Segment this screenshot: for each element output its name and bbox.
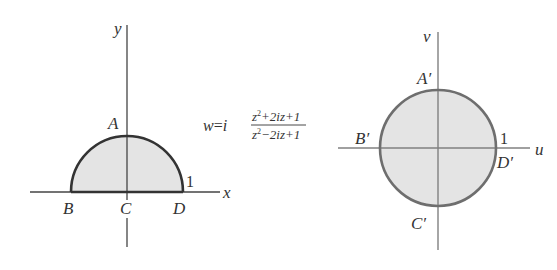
formula-denominator: z2−2iz+1 <box>251 127 300 142</box>
w-plane: v u A′ B′ C′ D′ 1 <box>338 27 544 250</box>
formula-numerator: z2+2iz+1 <box>251 109 300 124</box>
conformal-mapping-figure: y x A B C D 1 w=i z2+2iz+1 z2−2iz+1 v u … <box>0 0 557 270</box>
formula-lhs: w=i <box>203 117 227 134</box>
point-d-prime-label: D′ <box>496 153 513 172</box>
u-axis-label: u <box>535 140 544 159</box>
mapping-formula: w=i z2+2iz+1 z2−2iz+1 <box>203 109 306 142</box>
point-d-label: D <box>172 199 186 218</box>
y-axis-label: y <box>112 19 122 38</box>
v-axis-label: v <box>423 27 431 46</box>
x-axis-label: x <box>222 183 231 202</box>
point-c-label: C <box>120 199 132 218</box>
point-b-label: B <box>63 199 74 218</box>
point-b-prime-label: B′ <box>355 129 369 148</box>
point-a-label: A <box>107 114 119 133</box>
point-c-prime-label: C′ <box>411 214 426 233</box>
unit-radius-label: 1 <box>500 130 508 147</box>
point-a-prime-label: A′ <box>416 69 431 88</box>
radius-label: 1 <box>186 173 194 190</box>
z-plane: y x A B C D 1 <box>30 19 231 247</box>
